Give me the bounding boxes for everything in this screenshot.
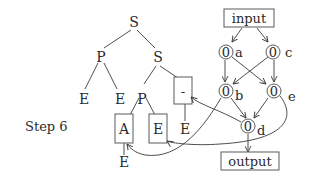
node-e-value: 0 — [270, 84, 278, 99]
node-c-value: 0 — [269, 45, 277, 60]
tree-node-p-left: P — [96, 49, 105, 65]
tree-node-e-left-right: E — [115, 91, 125, 107]
node-a-label: a — [235, 45, 243, 60]
a-box-label: A — [118, 121, 130, 137]
node-a-value: 0 — [222, 45, 230, 60]
tree-node-e-under-dash: E — [180, 121, 190, 137]
node-d-value: 0 — [244, 119, 252, 134]
flow-graph: input 0 a 0 c 0 b 0 e 0 d output — [219, 9, 296, 170]
output-label: output — [228, 154, 272, 169]
input-label: input — [232, 11, 267, 26]
node-b-value: 0 — [222, 84, 230, 99]
tree-node-e-left-left: E — [79, 91, 89, 107]
node-e-label: e — [288, 89, 296, 104]
node-d-label: d — [257, 123, 265, 138]
diagram-canvas: Step 6 S P S E E P - A E E E — [0, 0, 312, 176]
dash-box-label: - — [181, 84, 185, 99]
parse-tree: S P S E E P - A E E E — [79, 14, 192, 170]
e-box-label: E — [153, 121, 163, 137]
tree-node-p-mid: P — [137, 91, 146, 107]
step-label: Step 6 — [25, 119, 68, 134]
node-b-label: b — [235, 88, 243, 103]
node-c-label: c — [285, 45, 292, 60]
tree-node-s-right: S — [153, 49, 163, 65]
tree-node-s-root: S — [129, 14, 139, 30]
tree-node-e-under-a: E — [119, 154, 129, 170]
